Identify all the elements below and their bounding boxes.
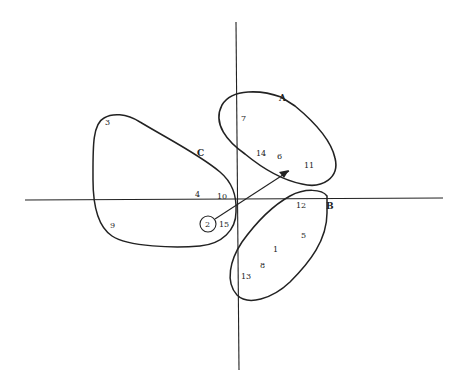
point-2: 2: [205, 220, 210, 229]
point-4: 4: [195, 190, 200, 199]
cluster-diagram: A B C 7 14 6 11 3 4 10 9 2 15 12 5 1 8 1…: [0, 0, 459, 390]
point-9: 9: [110, 221, 115, 230]
point-10: 10: [217, 192, 227, 201]
point-11: 11: [304, 161, 314, 170]
point-15: 15: [219, 220, 229, 229]
point-8: 8: [260, 261, 265, 270]
cluster-label-b: B: [326, 201, 334, 211]
point-1: 1: [273, 245, 278, 254]
point-6: 6: [277, 152, 282, 161]
point-5: 5: [301, 231, 306, 240]
point-7: 7: [241, 114, 246, 123]
cluster-label-c: C: [197, 148, 204, 158]
vertical-axis: [236, 22, 239, 370]
cluster-b-outline: [230, 190, 327, 300]
horizontal-axis: [25, 198, 443, 200]
point-14: 14: [256, 149, 266, 158]
point-3: 3: [105, 118, 110, 127]
point-13: 13: [241, 272, 251, 281]
point-12: 12: [296, 201, 306, 210]
cluster-label-a: A: [278, 93, 287, 103]
